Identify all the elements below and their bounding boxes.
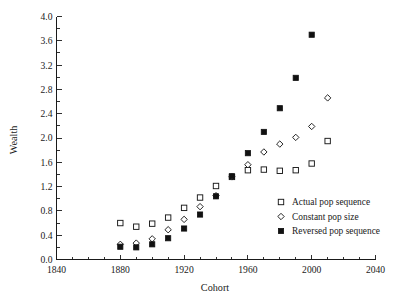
point-constant-pop-size	[165, 227, 171, 233]
x-tick-label: 2000	[302, 264, 321, 275]
legend-label: Constant pop size	[292, 212, 359, 222]
point-actual-pop-sequence	[165, 215, 170, 220]
point-actual-pop-sequence	[150, 221, 155, 226]
legend-marker-filled-square	[278, 228, 283, 233]
x-axis-tick-labels: 184018801920196020002040	[47, 264, 385, 275]
x-tick-label: 1880	[111, 264, 130, 275]
x-tick-label: 1920	[175, 264, 194, 275]
point-actual-pop-sequence	[181, 205, 186, 210]
point-actual-pop-sequence	[197, 195, 202, 200]
x-axis-ticks	[57, 255, 376, 260]
y-tick-label: 2.8	[41, 84, 53, 95]
point-reversed-pop-sequence	[229, 174, 234, 179]
point-actual-pop-sequence	[118, 220, 123, 225]
point-constant-pop-size	[277, 141, 283, 147]
point-actual-pop-sequence	[309, 161, 314, 166]
y-axis-ticks	[57, 17, 62, 260]
point-reversed-pop-sequence	[309, 32, 314, 37]
point-constant-pop-size	[261, 149, 267, 155]
y-tick-label: 0.4	[41, 230, 53, 241]
legend-marker-open-diamond	[278, 213, 284, 219]
chart-canvas: 0.00.40.81.21.62.02.42.83.23.64.0 184018…	[0, 0, 401, 306]
wealth-by-cohort-scatter-figure: 0.00.40.81.21.62.02.42.83.23.64.0 184018…	[0, 0, 401, 306]
point-actual-pop-sequence	[293, 167, 298, 172]
point-reversed-pop-sequence	[134, 245, 139, 250]
y-axis-tick-labels: 0.00.40.81.21.62.02.42.83.23.64.0	[41, 11, 53, 265]
point-constant-pop-size	[181, 216, 187, 222]
point-actual-pop-sequence	[277, 168, 282, 173]
y-tick-label: 4.0	[41, 11, 53, 22]
x-tick-label: 2040	[366, 264, 385, 275]
legend-marker-open-square	[278, 199, 283, 204]
legend-label: Reversed pop sequence	[292, 226, 380, 236]
y-tick-label: 0.8	[41, 205, 53, 216]
point-reversed-pop-sequence	[197, 212, 202, 217]
point-reversed-pop-sequence	[293, 75, 298, 80]
point-reversed-pop-sequence	[261, 129, 266, 134]
point-reversed-pop-sequence	[118, 244, 123, 249]
point-constant-pop-size	[324, 95, 330, 101]
point-actual-pop-sequence	[325, 138, 330, 143]
point-actual-pop-sequence	[261, 167, 266, 172]
point-constant-pop-size	[149, 236, 155, 242]
y-tick-label: 1.2	[41, 181, 53, 192]
x-tick-label: 1840	[47, 264, 66, 275]
point-reversed-pop-sequence	[277, 106, 282, 111]
series-reversed-pop-sequence	[118, 32, 315, 250]
point-reversed-pop-sequence	[182, 226, 187, 231]
point-reversed-pop-sequence	[213, 194, 218, 199]
chart-legend: Actual pop sequenceConstant pop sizeReve…	[278, 197, 380, 236]
point-actual-pop-sequence	[134, 224, 139, 229]
point-reversed-pop-sequence	[166, 236, 171, 241]
point-reversed-pop-sequence	[150, 242, 155, 247]
y-tick-label: 2.0	[41, 132, 53, 143]
x-tick-label: 1960	[238, 264, 257, 275]
point-constant-pop-size	[197, 203, 203, 209]
y-axis-title: Wealth	[8, 126, 19, 155]
point-actual-pop-sequence	[213, 183, 218, 188]
y-tick-label: 1.6	[41, 157, 53, 168]
x-axis-title: Cohort	[201, 282, 229, 293]
point-constant-pop-size	[293, 134, 299, 140]
y-tick-label: 2.4	[41, 108, 53, 119]
y-tick-label: 3.6	[41, 35, 53, 46]
legend-label: Actual pop sequence	[292, 197, 370, 207]
point-reversed-pop-sequence	[245, 151, 250, 156]
point-constant-pop-size	[245, 162, 251, 168]
point-constant-pop-size	[309, 123, 315, 129]
y-tick-label: 3.2	[41, 60, 53, 71]
